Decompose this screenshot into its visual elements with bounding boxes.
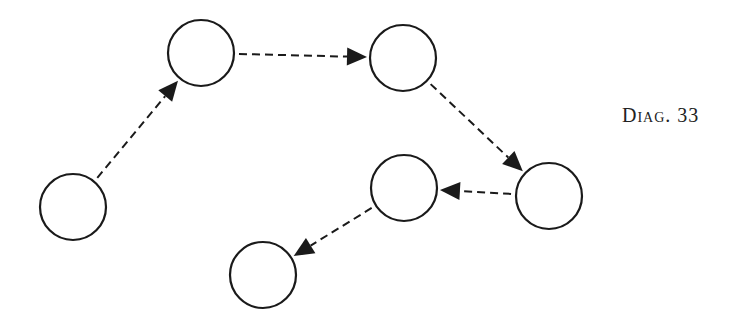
diagram-caption: Diag. 33	[622, 104, 699, 127]
edge-n4-n5	[440, 182, 511, 200]
node-circle-n5	[371, 155, 437, 221]
dashed-connector	[97, 96, 165, 178]
nodes-layer	[40, 20, 582, 308]
arrowhead-icon	[158, 81, 178, 102]
node-circle-n2	[168, 20, 234, 86]
node-circle-n6	[230, 242, 296, 308]
dashed-connector	[431, 84, 509, 157]
node-circle-n3	[370, 25, 436, 91]
dashed-connector	[311, 208, 372, 246]
edge-n1-n2	[97, 81, 178, 178]
arrowhead-icon	[347, 48, 367, 66]
edges-layer	[97, 48, 523, 256]
arrowhead-icon	[440, 182, 460, 200]
edge-n5-n6	[294, 208, 372, 256]
dashed-connector	[460, 191, 511, 194]
diagram-canvas	[0, 0, 748, 331]
node-circle-n1	[40, 174, 106, 240]
node-circle-n4	[516, 163, 582, 229]
arrowhead-icon	[502, 151, 523, 171]
dashed-connector	[239, 54, 347, 57]
edge-n2-n3	[239, 48, 367, 66]
arrowhead-icon	[294, 238, 316, 256]
edge-n3-n4	[431, 84, 523, 171]
